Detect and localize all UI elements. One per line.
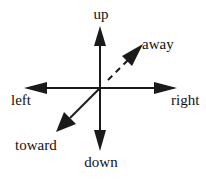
- arrow-down: [94, 88, 106, 151]
- arrow-toward: [56, 88, 100, 132]
- direction-diagram: up down left right toward away: [0, 0, 206, 179]
- label-left: left: [11, 92, 32, 108]
- label-right: right: [171, 92, 200, 108]
- label-toward: toward: [15, 137, 57, 153]
- label-up: up: [94, 6, 109, 22]
- arrow-left: [24, 82, 100, 94]
- label-away: away: [142, 36, 174, 52]
- arrow-right: [100, 82, 177, 94]
- arrow-away: [108, 44, 143, 80]
- label-down: down: [84, 154, 118, 170]
- arrow-up: [94, 26, 106, 88]
